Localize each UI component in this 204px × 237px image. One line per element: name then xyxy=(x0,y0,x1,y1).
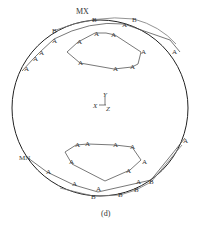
marker-a: A xyxy=(72,180,77,188)
z-axis-label: Z xyxy=(106,105,110,113)
marker-a: A xyxy=(111,31,116,39)
marker-a: A xyxy=(33,55,38,63)
marker-a: A xyxy=(113,65,118,73)
marker-b: B xyxy=(52,27,57,35)
marker-b: B xyxy=(132,16,137,24)
marker-a: A xyxy=(183,137,188,145)
y-axis-label: Y xyxy=(103,91,108,99)
figure-caption: (d) xyxy=(101,209,111,218)
marker-a: A xyxy=(130,63,135,71)
x-axis-label: X xyxy=(92,102,98,110)
marker-a: A xyxy=(142,158,147,166)
marker-a: A xyxy=(122,21,127,29)
bottom-a-curve xyxy=(28,138,185,192)
marker-a: A xyxy=(96,185,101,193)
marker-a: A xyxy=(85,140,90,148)
marker-a: A xyxy=(172,48,177,56)
max-label: MX xyxy=(76,7,89,16)
marker-a: A xyxy=(46,168,51,176)
marker-b: B xyxy=(118,191,123,199)
marker-a: A xyxy=(69,158,74,166)
top-a-curve xyxy=(22,23,180,71)
marker-b: B xyxy=(91,193,96,201)
min-label: MN xyxy=(19,154,30,162)
bottom-b-curve xyxy=(60,145,182,196)
marker-a: A xyxy=(78,59,83,67)
marker-a: A xyxy=(39,49,44,57)
marker-a: A xyxy=(24,65,29,73)
marker-a: A xyxy=(136,178,141,186)
marker-a: A xyxy=(94,30,99,38)
marker-b: B xyxy=(134,186,139,194)
marker-a: A xyxy=(141,48,146,56)
marker-a: A xyxy=(130,143,135,151)
marker-a: A xyxy=(126,167,131,175)
marker-a: A xyxy=(52,37,57,45)
marker-a: A xyxy=(77,38,82,46)
marker-b: B xyxy=(92,16,97,24)
pole-figure-diagram: MX MN Y X Z B B B A A A A A A A A A A A … xyxy=(0,0,204,237)
marker-a: A xyxy=(75,141,80,149)
marker-b: B xyxy=(149,178,154,186)
marker-a: A xyxy=(113,141,118,149)
